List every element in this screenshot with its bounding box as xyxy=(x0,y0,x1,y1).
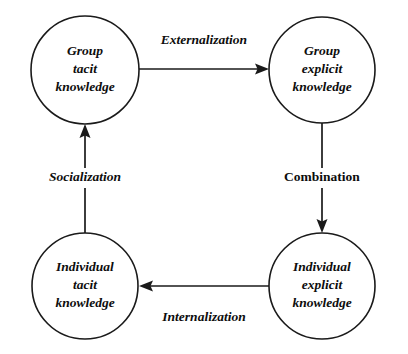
edge-internalization xyxy=(139,281,269,292)
knowledge-conversion-diagram: Externalization Combination Internalizat… xyxy=(0,0,408,354)
edge-externalization xyxy=(139,64,269,75)
edge-label-combination-group: Combination xyxy=(272,168,372,188)
edge-label-internalization: Internalization xyxy=(161,309,245,324)
node-group-explicit-knowledge-line-1: Group xyxy=(304,43,340,58)
diagram-canvas: Externalization Combination Internalizat… xyxy=(0,0,408,354)
node-individual-tacit-knowledge-line-1: Individual xyxy=(55,259,114,274)
edge-label-externalization: Externalization xyxy=(160,32,247,47)
node-individual-tacit-knowledge-line-2: tacit xyxy=(73,277,98,292)
edge-label-combination: Combination xyxy=(284,169,360,184)
node-individual-explicit-knowledge[interactable]: Individual explicit knowledge xyxy=(269,233,375,339)
node-group-tacit-knowledge-line-2: tacit xyxy=(73,61,98,76)
node-individual-explicit-knowledge-line-3: knowledge xyxy=(292,295,351,310)
node-group-tacit-knowledge[interactable]: Group tacit knowledge xyxy=(31,16,139,124)
node-group-tacit-knowledge-line-1: Group xyxy=(67,43,103,58)
node-individual-explicit-knowledge-line-1: Individual xyxy=(292,259,351,274)
edge-label-socialization-group: Socialization xyxy=(35,168,135,188)
node-individual-tacit-knowledge[interactable]: Individual tacit knowledge xyxy=(32,233,138,339)
node-group-explicit-knowledge[interactable]: Group explicit knowledge xyxy=(269,17,375,123)
node-individual-tacit-knowledge-line-3: knowledge xyxy=(55,295,114,310)
node-individual-explicit-knowledge-line-2: explicit xyxy=(302,277,344,292)
node-group-tacit-knowledge-line-3: knowledge xyxy=(55,79,114,94)
node-group-explicit-knowledge-line-2: explicit xyxy=(302,61,344,76)
node-group-explicit-knowledge-line-3: knowledge xyxy=(292,79,351,94)
edge-label-socialization: Socialization xyxy=(49,169,121,184)
